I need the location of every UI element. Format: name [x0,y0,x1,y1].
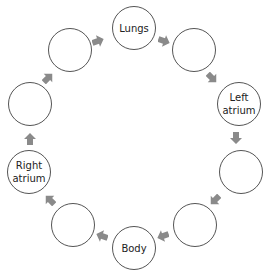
node-label: Right atrium [12,159,45,185]
arrow-icon [230,132,242,144]
node-left-atrium: Left atrium [217,82,261,126]
node-label: Lungs [119,22,149,35]
node-lungs: Lungs [112,6,156,50]
node-blank [172,28,216,72]
node-blank [8,82,52,126]
arrow-icon [24,133,36,145]
node-blank [51,203,95,247]
arrow-icon [206,72,218,84]
node-right-atrium: Right atrium [7,150,51,194]
arrow-icon [96,230,108,242]
node-blank [48,28,92,72]
arrow-icon [44,194,56,206]
node-blank [173,203,217,247]
node-label: Body [121,242,146,255]
node-body: Body [112,226,156,270]
circulation-diagram: Lungs Left atrium Body Right atrium [0,0,266,276]
arrow-icon [92,35,104,47]
arrow-icon [157,230,169,242]
arrow-icon [42,72,54,84]
arrow-icon [209,194,221,206]
node-blank [219,150,263,194]
arrow-icon [158,35,170,47]
node-label: Left atrium [222,91,255,117]
